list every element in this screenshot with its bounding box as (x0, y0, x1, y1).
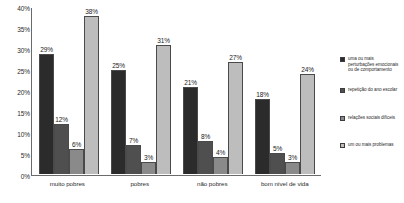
bar-value-label: 27% (229, 54, 242, 61)
legend-label: repetição do ano escolar (348, 87, 397, 93)
bar-value-label: 24% (301, 66, 314, 73)
bar-slot: 27% (228, 8, 243, 174)
bar-group: 18%5%3%24% (255, 8, 315, 174)
bar[interactable] (285, 162, 300, 174)
bar-value-label: 3% (144, 154, 153, 161)
bar-value-label: 18% (256, 91, 269, 98)
legend-label: relações sociais difíceis (348, 115, 395, 121)
bar-value-label: 3% (288, 154, 297, 161)
bar[interactable] (156, 45, 171, 174)
legend-label: um ou mais problemas (348, 142, 393, 148)
bar[interactable] (228, 62, 243, 174)
y-tick-label: 0% (0, 173, 30, 180)
bar-slot: 38% (84, 8, 99, 174)
bar[interactable] (183, 87, 198, 174)
bar-slot: 12% (54, 8, 69, 174)
bar[interactable] (213, 157, 228, 174)
bar-groups: 29%12%6%38%25%7%3%31%21%8%4%27%18%5%3%24… (33, 8, 321, 174)
legend-item[interactable]: repetição do ano escolar (340, 87, 397, 93)
bar-slot: 8% (198, 8, 213, 174)
bar-group: 25%7%3%31% (111, 8, 171, 174)
bar-slot: 5% (270, 8, 285, 174)
bar-slot: 21% (183, 8, 198, 174)
y-tick-label: 15% (0, 110, 30, 117)
legend-item[interactable]: uma ou mais perturbações emocionais ou d… (340, 56, 400, 73)
y-tick-label: 20% (0, 89, 30, 96)
bar-slot: 6% (69, 8, 84, 174)
x-axis-category-label: bom nível de vida (254, 180, 316, 194)
y-tick-label: 35% (0, 26, 30, 33)
bar[interactable] (111, 70, 126, 174)
bar[interactable] (126, 145, 141, 174)
bar[interactable] (39, 54, 54, 174)
y-axis: 40%35%30%25%20%15%10%5%0% (0, 0, 30, 176)
legend-item[interactable]: um ou mais problemas (340, 142, 393, 148)
bar-slot: 18% (255, 8, 270, 174)
bar-slot: 3% (285, 8, 300, 174)
bar-value-label: 5% (273, 145, 282, 152)
bar-value-label: 31% (157, 37, 170, 44)
y-tick-label: 5% (0, 152, 30, 159)
bar[interactable] (69, 149, 84, 174)
bar-value-label: 8% (201, 133, 210, 140)
legend-swatch-icon (340, 57, 345, 62)
legend-label: uma ou mais perturbações emocionais ou d… (348, 56, 400, 73)
bar-value-label: 4% (216, 149, 225, 156)
x-axis-category-label: muito pobres (36, 180, 98, 194)
bar-value-label: 21% (184, 79, 197, 86)
bar[interactable] (141, 162, 156, 174)
bar-value-label: 12% (55, 116, 68, 123)
bar[interactable] (84, 16, 99, 174)
bar[interactable] (300, 74, 315, 174)
x-axis-category-label: não pobres (181, 180, 243, 194)
legend-swatch-icon (340, 88, 345, 93)
bar-value-label: 38% (85, 8, 98, 15)
bar-value-label: 29% (40, 46, 53, 53)
bar-slot: 4% (213, 8, 228, 174)
y-tick-label: 25% (0, 68, 30, 75)
bar-slot: 24% (300, 8, 315, 174)
bar-slot: 31% (156, 8, 171, 174)
legend-swatch-icon (340, 116, 345, 121)
y-tick-label: 30% (0, 47, 30, 54)
bar-slot: 3% (141, 8, 156, 174)
y-tick-label: 10% (0, 131, 30, 138)
bar-group: 21%8%4%27% (183, 8, 243, 174)
legend-swatch-icon (340, 143, 345, 148)
bar-group: 29%12%6%38% (39, 8, 99, 174)
bar-value-label: 6% (72, 141, 81, 148)
bar-slot: 25% (111, 8, 126, 174)
x-axis-category-label: pobres (109, 180, 171, 194)
plot-area: 29%12%6%38%25%7%3%31%21%8%4%27%18%5%3%24… (31, 8, 321, 176)
bar-slot: 29% (39, 8, 54, 174)
y-tick-label: 40% (0, 5, 30, 12)
bar-slot: 7% (126, 8, 141, 174)
bar[interactable] (255, 99, 270, 174)
bar[interactable] (198, 141, 213, 174)
bar-value-label: 7% (129, 137, 138, 144)
bar-value-label: 25% (112, 62, 125, 69)
legend-item[interactable]: relações sociais difíceis (340, 115, 395, 121)
x-axis-category-labels: muito pobrespobresnão pobresbom nível de… (31, 180, 321, 194)
bar[interactable] (54, 124, 69, 174)
bar-chart: 40%35%30%25%20%15%10%5%0% 29%12%6%38%25%… (0, 0, 404, 203)
bar[interactable] (270, 153, 285, 174)
